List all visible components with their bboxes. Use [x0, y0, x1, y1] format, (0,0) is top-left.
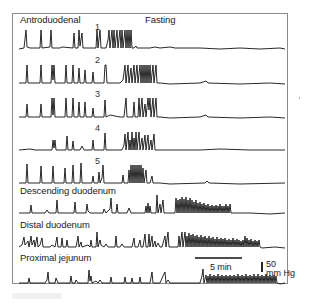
label-distal-duodenum: Distal duodenum: [20, 219, 90, 230]
trace-descending-duodenum: [19, 195, 285, 214]
label-descending-duodenum: Descending duodenum: [20, 185, 116, 196]
trace-proximal-jejunum: [19, 269, 285, 284]
title-fasting: Fasting: [145, 14, 175, 25]
trace-antroduodenal-3: [19, 98, 285, 118]
faint-caption-remnant: [12, 293, 62, 299]
trace-distal-duodenum: [19, 232, 285, 248]
channel-label-4: 4: [95, 123, 100, 133]
pressure-scale-unit: mm Hg: [266, 269, 295, 277]
label-proximal-jejunum: Proximal jejunum: [20, 252, 91, 263]
channel-label-2: 2: [95, 55, 100, 65]
time-scale-label: 5 min: [210, 262, 232, 272]
channel-label-5: 5: [95, 156, 100, 166]
trace-antroduodenal-4: [19, 132, 285, 150]
stray-mark: [299, 97, 300, 99]
trace-antroduodenal-1: [19, 30, 285, 49]
channel-label-3: 3: [95, 89, 100, 99]
title-antroduodenal: Antroduodenal: [20, 14, 81, 25]
channel-label-1: 1: [95, 22, 100, 32]
trace-antroduodenal-2: [19, 65, 285, 84]
trace-antroduodenal-5: [19, 163, 285, 184]
pressure-scale-value: 50: [266, 260, 276, 268]
